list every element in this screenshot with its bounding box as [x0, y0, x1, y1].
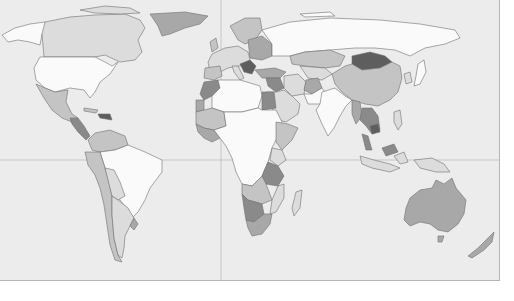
- world-map: [0, 0, 500, 281]
- region-caribbean: [98, 114, 112, 120]
- region-greenland: [150, 12, 208, 36]
- region-iraq-syria: [266, 78, 284, 92]
- region-australia: [404, 178, 466, 232]
- region-malaysia: [362, 134, 398, 156]
- region-cuba: [84, 108, 98, 113]
- region-madagascar: [292, 190, 302, 216]
- region-turkey: [255, 68, 286, 78]
- region-canada: [42, 14, 145, 62]
- region-iberia: [204, 66, 222, 80]
- region-new-zealand: [468, 232, 494, 258]
- region-uk: [210, 38, 218, 52]
- region-cambodia: [370, 124, 380, 134]
- region-tasmania: [438, 236, 444, 242]
- region-eastern-europe: [248, 36, 272, 60]
- choropleth-map-svg: [0, 0, 500, 281]
- region-mozambique: [270, 184, 284, 214]
- region-north-africa: [212, 80, 262, 112]
- region-canadian-islands: [80, 6, 140, 14]
- region-indonesia: [360, 152, 408, 172]
- region-korea: [404, 72, 412, 84]
- region-arctic-islands: [300, 12, 335, 17]
- region-russia: [262, 18, 460, 56]
- region-japan: [414, 60, 426, 86]
- region-central-asia: [300, 66, 332, 80]
- region-philippines: [394, 110, 402, 130]
- region-egypt: [262, 92, 276, 110]
- region-central-america: [70, 118, 90, 140]
- region-horn-of-africa: [276, 122, 298, 150]
- region-kenya: [270, 148, 286, 166]
